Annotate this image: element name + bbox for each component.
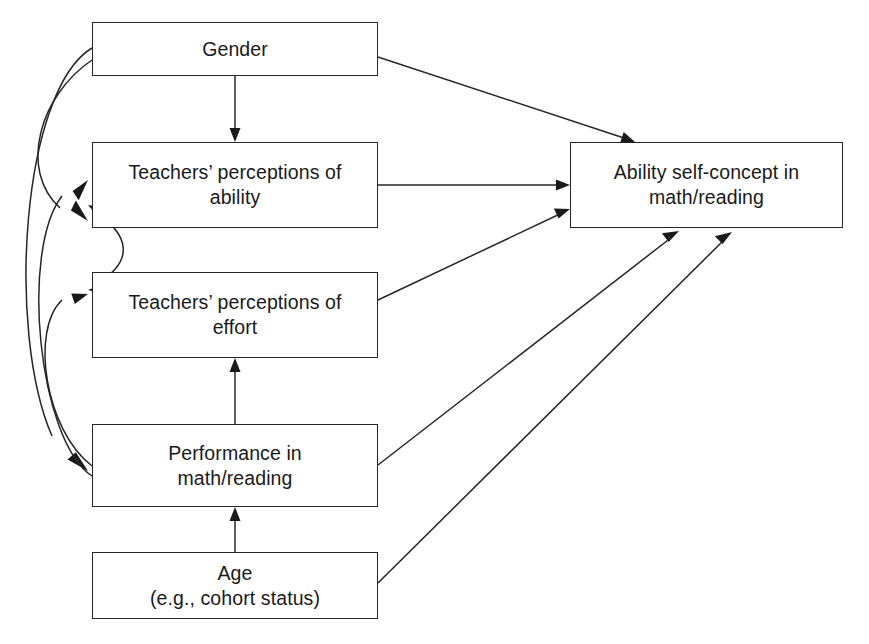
edge-age-to-self-concept: [378, 232, 732, 583]
node-teacher-perceptions-ability[interactable]: Teachers’ perceptions of ability: [92, 142, 378, 228]
node-gender[interactable]: Gender: [92, 22, 378, 76]
node-age-label: Age (e.g., cohort status): [144, 561, 326, 611]
edge-gender-to-self-concept: [378, 57, 635, 143]
edge-age-to-performance: [230, 507, 241, 552]
edge-teacher-ability-to-self-concept: [378, 180, 570, 191]
edge-performance-to-teacher-effort-curved: [45, 294, 92, 466]
edge-gender-to-performance-curved: [26, 48, 92, 471]
node-ability-self-concept-label: Ability self-concept in math/reading: [608, 160, 805, 210]
edge-performance-to-self-concept: [378, 231, 679, 465]
node-performance-label: Performance in math/reading: [162, 441, 308, 491]
node-ability-self-concept[interactable]: Ability self-concept in math/reading: [570, 142, 843, 228]
node-performance[interactable]: Performance in math/reading: [92, 424, 378, 507]
node-teacher-perceptions-effort[interactable]: Teachers’ perceptions of effort: [92, 272, 378, 358]
node-age[interactable]: Age (e.g., cohort status): [92, 552, 378, 619]
node-gender-label: Gender: [196, 37, 274, 62]
path-diagram: Gender Teachers’ perceptions of ability …: [0, 0, 869, 644]
edge-teacher-effort-to-self-concept: [378, 209, 570, 301]
node-teacher-perceptions-effort-label: Teachers’ perceptions of effort: [122, 290, 347, 340]
node-teacher-perceptions-ability-label: Teachers’ perceptions of ability: [122, 160, 347, 210]
edge-performance-to-teacher-ability-curved: [39, 180, 92, 476]
edge-gender-to-teacher-ability: [230, 76, 241, 142]
edge-performance-to-teacher-effort: [230, 358, 241, 424]
edge-gender-to-teacher-ability-curved: [38, 60, 92, 221]
